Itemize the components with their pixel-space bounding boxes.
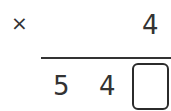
answer-input-box[interactable] (132, 63, 169, 110)
multiplication-sign-icon: × (11, 13, 28, 33)
result-digit-1: 5 (53, 73, 70, 99)
result-digit-2: 4 (99, 73, 116, 99)
result-divider-line (41, 57, 171, 59)
multiplier-digit: 4 (142, 12, 159, 38)
